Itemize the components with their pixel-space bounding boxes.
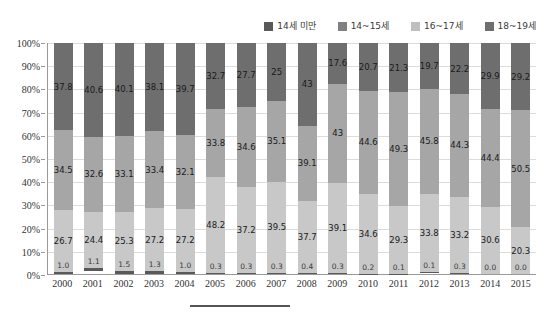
y-axis-tickmark <box>41 89 45 90</box>
bar-segment[interactable]: 49.3 <box>389 92 408 206</box>
stacked-bar[interactable]: 22.244.333.20.3 <box>450 43 469 274</box>
bar-segment[interactable]: 1.5 <box>115 271 134 274</box>
bar-segment-label: 21.3 <box>389 64 408 73</box>
bar-segment-label: 33.1 <box>115 170 134 179</box>
legend-label: 14세 미만 <box>277 22 315 31</box>
x-axis-tick-label: 2012 <box>414 278 445 298</box>
bar-segment[interactable]: 22.2 <box>450 43 469 94</box>
bar-segment[interactable]: 0.3 <box>328 273 347 274</box>
bar-segment[interactable]: 44.4 <box>481 109 500 207</box>
legend-swatch-icon <box>338 22 347 31</box>
bar-slot: 22.244.333.20.3 <box>445 43 476 274</box>
bar-segment-label: 32.1 <box>176 168 195 177</box>
bar-segment[interactable]: 20.7 <box>359 43 378 91</box>
bar-segment-label: 44.4 <box>481 154 500 163</box>
bar-segment[interactable]: 39.5 <box>267 182 286 273</box>
bar-segment[interactable]: 44.6 <box>359 91 378 194</box>
stacked-bar[interactable]: 40.133.125.31.5 <box>115 43 134 274</box>
bar-segment[interactable]: 0.3 <box>267 273 286 274</box>
stacked-bar[interactable]: 32.733.848.20.3 <box>206 43 225 274</box>
bar-segment[interactable]: 44.3 <box>450 94 469 196</box>
stacked-bar[interactable]: 2535.139.50.3 <box>267 43 286 274</box>
bar-segment-label: 38.1 <box>145 83 164 92</box>
bar-segment-label: 34.6 <box>237 143 256 152</box>
stacked-bar[interactable]: 19.745.833.80.1 <box>420 43 439 274</box>
bar-segment[interactable]: 43 <box>328 84 347 183</box>
x-axis-tick-label: 2000 <box>47 278 78 298</box>
bar-segment-label: 45.8 <box>420 137 439 146</box>
stacked-bar[interactable]: 37.834.526.71.0 <box>54 43 73 274</box>
stacked-bar[interactable]: 20.744.634.60.2 <box>359 43 378 274</box>
bar-segment[interactable]: 38.1 <box>145 43 164 131</box>
legend-item-0[interactable]: 14세 미만 <box>264 22 315 31</box>
stacked-bar[interactable]: 4339.137.70.4 <box>298 43 317 274</box>
stacked-bar[interactable]: 27.734.637.20.3 <box>237 43 256 274</box>
bar-group: 37.834.526.71.040.632.624.41.140.133.125… <box>48 43 536 274</box>
x-axis-tick-label: 2009 <box>322 278 353 298</box>
bar-segment[interactable]: 29.2 <box>511 43 530 110</box>
bar-segment[interactable]: 34.5 <box>54 130 73 210</box>
bar-segment[interactable]: 39.1 <box>328 183 347 273</box>
bar-segment[interactable]: 40.1 <box>115 43 134 136</box>
bar-segment[interactable]: 45.8 <box>420 89 439 195</box>
bar-segment[interactable]: 19.7 <box>420 43 439 89</box>
bar-segment[interactable]: 32.1 <box>176 135 195 209</box>
bar-segment-label: 39.7 <box>176 85 195 94</box>
bar-segment[interactable]: 1.3 <box>145 271 164 274</box>
bar-segment[interactable]: 1.1 <box>84 268 103 271</box>
bar-segment[interactable]: 17.6 <box>328 43 347 84</box>
stacked-bar[interactable]: 39.732.127.21.0 <box>176 43 195 274</box>
bar-segment[interactable]: 0.3 <box>206 273 225 274</box>
bar-segment[interactable]: 21.3 <box>389 43 408 92</box>
bar-segment[interactable]: 33.1 <box>115 136 134 212</box>
bar-segment[interactable]: 1.0 <box>176 272 195 274</box>
bar-segment[interactable]: 32.7 <box>206 43 225 109</box>
bar-segment-label: 33.8 <box>206 139 225 148</box>
x-axis-tick-label: 2015 <box>505 278 536 298</box>
bar-segment-label: 0.3 <box>210 263 222 271</box>
bar-segment[interactable]: 34.6 <box>237 107 256 187</box>
bar-segment[interactable]: 27.7 <box>237 43 256 107</box>
stacked-bar[interactable]: 29.944.430.60.0 <box>481 43 500 274</box>
legend-item-2[interactable]: 16~17세 <box>411 22 462 31</box>
bar-segment-label: 1.0 <box>57 262 69 270</box>
bar-slot: 20.744.634.60.2 <box>353 43 384 274</box>
y-axis-tickmark <box>41 182 45 183</box>
bar-segment[interactable]: 1.0 <box>54 272 73 274</box>
bar-segment[interactable]: 0.3 <box>450 273 469 274</box>
bar-segment-label: 34.5 <box>54 166 73 175</box>
bar-segment[interactable]: 33.8 <box>206 109 225 177</box>
y-axis-tick-label: 10% <box>22 246 40 257</box>
legend-label: 16~17세 <box>424 22 462 31</box>
bar-segment[interactable]: 29.9 <box>481 43 500 109</box>
bar-segment[interactable]: 39.1 <box>298 126 317 201</box>
stacked-bar[interactable]: 38.133.427.21.3 <box>145 43 164 274</box>
bar-segment[interactable]: 40.6 <box>84 43 103 137</box>
y-axis-tickmark <box>41 66 45 67</box>
bar-segment[interactable]: 35.1 <box>267 101 286 182</box>
bar-segment[interactable]: 50.5 <box>511 110 530 227</box>
bar-segment[interactable]: 32.6 <box>84 137 103 212</box>
x-axis-tick-label: 2004 <box>169 278 200 298</box>
legend-item-3[interactable]: 18~19세 <box>485 22 536 31</box>
bar-segment[interactable]: 37.8 <box>54 43 73 130</box>
bar-slot: 40.632.624.41.1 <box>79 43 110 274</box>
bar-segment[interactable]: 39.7 <box>176 43 195 135</box>
stacked-bar[interactable]: 17.64339.10.3 <box>328 43 347 274</box>
bar-segment-label: 27.2 <box>145 236 164 245</box>
stacked-bar[interactable]: 29.250.520.30.0 <box>511 43 530 274</box>
chart-legend: 14세 미만14~15세16~17세18~19세 <box>0 17 550 35</box>
bar-segment[interactable]: 25 <box>267 43 286 101</box>
bar-segment-label: 35.1 <box>267 137 286 146</box>
bar-segment[interactable]: 48.2 <box>206 177 225 274</box>
legend-item-1[interactable]: 14~15세 <box>338 22 389 31</box>
stacked-bar[interactable]: 40.632.624.41.1 <box>84 43 103 274</box>
stacked-bar[interactable]: 21.349.329.30.1 <box>389 43 408 274</box>
x-axis-tick-label: 2003 <box>139 278 170 298</box>
bar-segment[interactable]: 33.4 <box>145 131 164 208</box>
bar-segment[interactable]: 43 <box>298 43 317 126</box>
bar-segment[interactable]: 0.3 <box>237 273 256 274</box>
bar-segment[interactable]: 0.4 <box>298 273 317 274</box>
bar-segment[interactable]: 37.2 <box>237 187 256 273</box>
bar-segment-label: 30.6 <box>481 236 500 245</box>
